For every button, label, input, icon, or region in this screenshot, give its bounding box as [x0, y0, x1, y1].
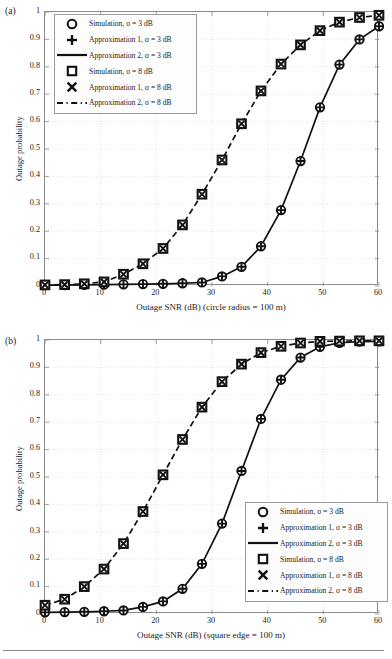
legend-item-label: Approximation 2, σ = 8 dB [280, 586, 363, 595]
x-tick-label: 50 [308, 288, 336, 297]
x-axis-label-a: Outage SNR (dB) (circle radius = 100 m) [44, 302, 378, 312]
legend-item-0[interactable]: Simulation, σ = 3 dB [246, 504, 387, 520]
legend-item-3[interactable]: Simulation, σ = 8 dB [55, 63, 196, 79]
y-tick-label: 0.8 [14, 61, 40, 70]
legend-item-label: Simulation, σ = 8 dB [280, 555, 344, 564]
x-tick-label: 50 [308, 616, 336, 625]
legend-item-label: Simulation, σ = 3 dB [89, 19, 153, 28]
y-tick-label: 0.5 [14, 471, 40, 480]
y-tick-label: 0.6 [14, 443, 40, 452]
x-tick-label: 0 [30, 616, 58, 625]
plus-marker [246, 520, 280, 536]
x-tick-label: 20 [141, 288, 169, 297]
dashed-line-marker [246, 583, 280, 599]
x-tick-label: 40 [253, 288, 281, 297]
y-tick-label: 0.3 [14, 526, 40, 535]
solid-line-marker [55, 48, 89, 64]
x-axis-label-b: Outage SNR (dB) (square edge = 100 m) [44, 630, 378, 640]
y-tick-label: 0.7 [14, 88, 40, 97]
cross-marker [55, 79, 89, 95]
x-tick-label: 30 [197, 288, 225, 297]
x-tick-label: 0 [30, 288, 58, 297]
chart-panel-b: (b) Outage probability Outage SNR (dB) (… [0, 330, 387, 659]
circle-marker [246, 504, 280, 520]
legend-item-2[interactable]: Approximation 2, σ = 3 dB [246, 536, 387, 552]
y-tick-label: 0.4 [14, 170, 40, 179]
y-tick-label: 1 [14, 6, 40, 15]
cross-marker [246, 567, 280, 583]
legend-item-label: Approximation 2, σ = 3 dB [280, 539, 363, 548]
x-tick-label: 30 [197, 616, 225, 625]
legend-item-5[interactable]: Approximation 2, σ = 8 dB [55, 95, 196, 111]
legend-item-1[interactable]: Approximation 1, σ = 3 dB [246, 520, 387, 536]
legend-item-label: Approximation 2, σ = 8 dB [89, 98, 172, 107]
legend-item-1[interactable]: Approximation 1, σ = 3 dB [55, 32, 196, 48]
x-tick-label: 60 [364, 288, 392, 297]
footer-divider [3, 650, 384, 651]
y-tick-label: 0.8 [14, 389, 40, 398]
dashed-line-marker [55, 95, 89, 111]
y-tick-label: 0.4 [14, 498, 40, 507]
x-tick-label: 40 [253, 616, 281, 625]
y-tick-label: 0.7 [14, 416, 40, 425]
legend-item-0[interactable]: Simulation, σ = 3 dB [55, 16, 196, 32]
legend-item-4[interactable]: Approximation 1, σ = 8 dB [246, 567, 387, 583]
square-marker [55, 63, 89, 79]
legend-item-3[interactable]: Simulation, σ = 8 dB [246, 551, 387, 567]
legend-item-label: Approximation 1, σ = 8 dB [89, 83, 172, 92]
legend-item-label: Simulation, σ = 3 dB [280, 507, 344, 516]
chart-legend[interactable]: Simulation, σ = 3 dBApproximation 1, σ =… [54, 14, 197, 114]
y-tick-label: 0.9 [14, 361, 40, 370]
y-tick-label: 0.5 [14, 143, 40, 152]
square-marker [246, 551, 280, 567]
chart-legend[interactable]: Simulation, σ = 3 dBApproximation 1, σ =… [245, 502, 388, 602]
y-tick-label: 0.1 [14, 580, 40, 589]
legend-item-label: Simulation, σ = 8 dB [89, 67, 153, 76]
y-tick-label: 0.6 [14, 115, 40, 124]
y-tick-label: 0.9 [14, 33, 40, 42]
x-tick-label: 10 [86, 616, 114, 625]
x-tick-label: 20 [141, 616, 169, 625]
y-tick-label: 0.3 [14, 198, 40, 207]
x-tick-label: 60 [364, 616, 392, 625]
legend-item-label: Approximation 1, σ = 3 dB [280, 523, 363, 532]
y-tick-label: 0.2 [14, 553, 40, 562]
y-tick-label: 1 [14, 334, 40, 343]
legend-item-label: Approximation 1, σ = 3 dB [89, 35, 172, 44]
legend-item-5[interactable]: Approximation 2, σ = 8 dB [246, 583, 387, 599]
x-tick-label: 10 [86, 288, 114, 297]
y-tick-label: 0.1 [14, 252, 40, 261]
chart-panel-a: (a) Outage probability Outage SNR (dB) (… [0, 0, 387, 329]
legend-item-4[interactable]: Approximation 1, σ = 8 dB [55, 79, 196, 95]
circle-marker [55, 16, 89, 32]
legend-item-label: Approximation 1, σ = 8 dB [280, 571, 363, 580]
solid-line-marker [246, 536, 280, 552]
legend-item-label: Approximation 2, σ = 3 dB [89, 51, 172, 60]
plus-marker [55, 32, 89, 48]
y-tick-label: 0.2 [14, 225, 40, 234]
legend-item-2[interactable]: Approximation 2, σ = 3 dB [55, 48, 196, 64]
